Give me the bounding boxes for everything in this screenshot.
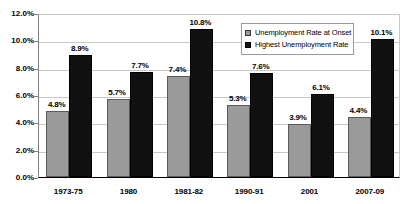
x-axis-tick-label: 1990-91 — [219, 188, 279, 196]
legend-item: Unemployment Rate at Onset — [245, 27, 350, 38]
x-axis-tick-label: 1980 — [98, 188, 158, 196]
legend-item-label: Highest Unemployment Rate — [255, 41, 348, 49]
bar-chart: 12.0%10.0%8.0%6.0%4.0%2.0%0.0% 4.8%8.9%5… — [0, 0, 411, 204]
legend-swatch-highest-icon — [245, 42, 251, 48]
x-axis-tick-label: 2001 — [279, 188, 339, 196]
legend-swatch-onset-icon — [245, 30, 251, 36]
x-axis-tick-label: 2007-09 — [340, 188, 400, 196]
legend: Unemployment Rate at OnsetHighest Unempl… — [241, 23, 354, 55]
legend-item-label: Unemployment Rate at Onset — [255, 29, 351, 37]
legend-item: Highest Unemployment Rate — [245, 39, 350, 50]
x-axis-tick-label: 1973-75 — [38, 188, 98, 196]
x-axis-tick-label: 1981-82 — [159, 188, 219, 196]
